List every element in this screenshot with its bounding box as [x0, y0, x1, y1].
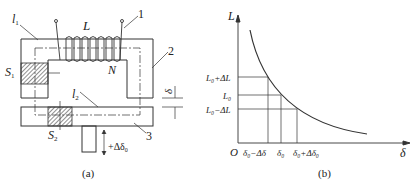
y-axis-label: L	[227, 9, 235, 23]
label-part-2: 2	[168, 44, 174, 58]
x-axis-label: δ	[400, 146, 406, 160]
origin-label: O	[230, 146, 238, 158]
s1-hatched-area	[21, 63, 48, 84]
label-part-3: 3	[146, 129, 152, 143]
label-S1: S1	[5, 65, 15, 80]
figure-b-graph	[236, 15, 410, 145]
y-tick-L0-plus: L₀+ΔL	[205, 73, 231, 83]
y-tick-L0: L₀	[222, 91, 231, 101]
label-inductance-L: L	[82, 18, 90, 33]
x-tick-delta0: δ₀	[277, 148, 284, 158]
label-S2: S2	[48, 128, 58, 143]
label-part-1: 1	[138, 7, 144, 21]
label-l2: l2	[72, 87, 79, 102]
label-gap-delta: δ	[162, 88, 174, 94]
caption-b: (b)	[318, 167, 331, 180]
caption-a: (a)	[82, 167, 95, 180]
label-l1: l1	[12, 12, 19, 27]
label-displacement: +Δδ0	[108, 141, 128, 153]
inductance-curve	[250, 30, 367, 134]
label-turns-N: N	[107, 63, 117, 77]
x-tick-delta-plus: δ₀+Δδ₀	[293, 148, 319, 158]
figure-a-sensor	[21, 39, 153, 152]
x-tick-delta-minus: δ₀−Δδ	[243, 148, 267, 158]
figure: l1 L 1 2 N S1 l2 S2 3 +Δδ0 δ (a) L δ O L…	[0, 0, 417, 187]
y-tick-L0-minus: L₀−ΔL	[205, 105, 231, 115]
